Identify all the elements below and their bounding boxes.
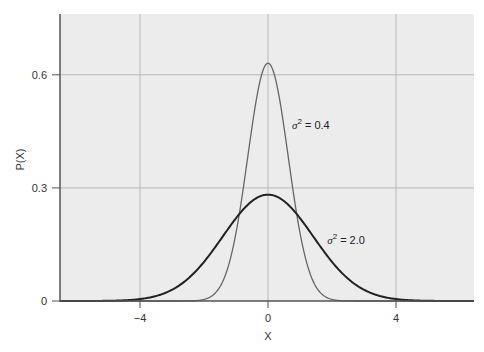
y-tick-label: 0.6 bbox=[32, 69, 47, 81]
normal-distribution-chart: −40400.30.6 X P(X) σ2 = 0.4σ2 = 2.0 bbox=[0, 0, 484, 352]
y-axis-title: P(X) bbox=[14, 149, 26, 171]
x-tick-label: −4 bbox=[134, 312, 147, 324]
x-tick-label: 4 bbox=[393, 312, 399, 324]
x-axis-title: X bbox=[264, 330, 272, 342]
y-tick-label: 0 bbox=[41, 295, 47, 307]
y-tick-label: 0.3 bbox=[32, 182, 47, 194]
plot-area bbox=[60, 14, 474, 301]
x-tick-label: 0 bbox=[265, 312, 271, 324]
